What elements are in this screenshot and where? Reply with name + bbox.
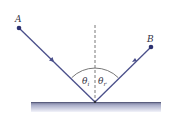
theta-r-label: θr (98, 76, 107, 87)
reflection-diagram: A B θi θr (0, 0, 170, 120)
reflected-ray (95, 47, 151, 102)
label-b: B (146, 34, 154, 44)
point-a (17, 26, 22, 31)
theta-i-label: θi (82, 76, 89, 87)
incident-ray (19, 28, 95, 102)
label-a: A (14, 14, 22, 24)
point-b (149, 45, 154, 50)
reflection-point (94, 101, 96, 103)
reflecting-surface (31, 102, 161, 112)
